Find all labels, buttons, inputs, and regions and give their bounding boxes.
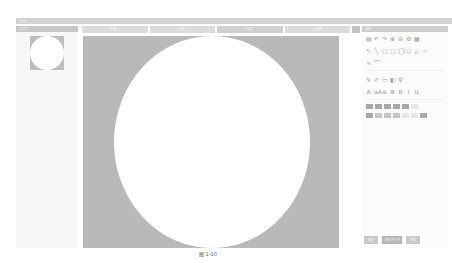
color-swatches bbox=[362, 102, 448, 120]
align-center-icon[interactable]: ≣ bbox=[390, 89, 395, 94]
arc-icon[interactable]: ⌒ bbox=[374, 60, 379, 65]
slides-panel: 幻灯片 bbox=[16, 26, 78, 248]
save-file-button[interactable]: 保存为文件 bbox=[382, 236, 402, 244]
fill-icon[interactable]: ◧ bbox=[390, 77, 395, 82]
cancel-button[interactable]: 取消 bbox=[406, 236, 420, 244]
star-icon[interactable]: ☆ bbox=[422, 48, 427, 53]
color-swatch[interactable] bbox=[384, 113, 391, 118]
step-tab-2[interactable]: 步骤二 bbox=[150, 26, 216, 33]
slide-thumbnail[interactable] bbox=[30, 36, 64, 70]
pen-icon[interactable]: ✎ bbox=[366, 77, 371, 82]
thumbnail-circle bbox=[30, 36, 64, 70]
bold-icon[interactable]: B bbox=[398, 89, 403, 94]
polygon-icon[interactable]: ⬠ bbox=[406, 48, 411, 53]
line-icon[interactable]: ╲ bbox=[374, 48, 379, 53]
color-swatch[interactable] bbox=[375, 113, 382, 118]
toolbar-row: ▤↶↷⊕⊖⚙▦ bbox=[362, 32, 448, 44]
color-swatch[interactable] bbox=[402, 104, 409, 109]
title-bar: Paint bbox=[16, 18, 452, 24]
step-tab-4[interactable]: 步骤四 bbox=[285, 26, 351, 33]
file-icon[interactable]: ▤ bbox=[366, 36, 371, 41]
toolbar-row: ∿⌒ bbox=[362, 56, 448, 68]
step-tabs: 步骤一 步骤二 步骤三 步骤四 bbox=[82, 26, 360, 33]
grid-icon[interactable]: ▦ bbox=[414, 36, 419, 41]
color-swatch[interactable] bbox=[420, 113, 427, 118]
color-swatch[interactable] bbox=[366, 113, 373, 118]
drawing-canvas[interactable] bbox=[83, 36, 339, 248]
align-left-icon[interactable]: ≡ bbox=[382, 89, 387, 94]
toolbar-row: ↖╲□▢◯⬠△☆ bbox=[362, 44, 448, 56]
italic-icon[interactable]: I bbox=[406, 89, 411, 94]
window-title: Paint bbox=[19, 19, 26, 23]
brush-icon[interactable]: ✐ bbox=[374, 77, 379, 82]
text-icon[interactable]: A bbox=[366, 89, 371, 94]
step-tab-1[interactable]: 步骤一 bbox=[82, 26, 148, 33]
color-swatch[interactable] bbox=[393, 104, 400, 109]
undo-icon[interactable]: ↶ bbox=[374, 36, 379, 41]
eraser-icon[interactable]: ▭ bbox=[382, 77, 387, 82]
select-icon[interactable]: ↖ bbox=[366, 48, 371, 53]
zoom-in-icon[interactable]: ⊕ bbox=[390, 36, 395, 41]
swatch-row bbox=[362, 111, 448, 120]
divider bbox=[366, 70, 444, 71]
color-swatch[interactable] bbox=[375, 104, 382, 109]
ellipse-icon[interactable]: ◯ bbox=[398, 48, 403, 53]
zoom-out-icon[interactable]: ⊖ bbox=[398, 36, 403, 41]
settings-icon[interactable]: ⚙ bbox=[406, 36, 411, 41]
curve-icon[interactable]: ∿ bbox=[366, 60, 371, 65]
redo-icon[interactable]: ↷ bbox=[382, 36, 387, 41]
swatch-row bbox=[362, 102, 448, 111]
toolbar: ▤↶↷⊕⊖⚙▦↖╲□▢◯⬠△☆∿⌒✎✐▭◧⚲AaA≡≣BIU bbox=[362, 32, 448, 97]
step-tab-end[interactable] bbox=[352, 26, 360, 33]
color-swatch[interactable] bbox=[411, 113, 418, 118]
color-swatch[interactable] bbox=[402, 113, 409, 118]
eyedropper-icon[interactable]: ⚲ bbox=[398, 77, 403, 82]
color-swatch[interactable] bbox=[411, 104, 418, 109]
toolbar-row: ✎✐▭◧⚲ bbox=[362, 73, 448, 85]
ok-button[interactable]: 确定 bbox=[364, 236, 378, 244]
action-buttons: 确定保存为文件取消 bbox=[364, 236, 420, 244]
rect-icon[interactable]: □ bbox=[382, 48, 387, 53]
font-size-icon[interactable]: aA bbox=[374, 89, 379, 94]
toolbar-row: AaA≡≣BIU bbox=[362, 85, 448, 97]
rounded-rect-icon[interactable]: ▢ bbox=[390, 48, 395, 53]
color-swatch[interactable] bbox=[393, 113, 400, 118]
underline-icon[interactable]: U bbox=[414, 89, 419, 94]
triangle-icon[interactable]: △ bbox=[414, 48, 419, 53]
circle-shape[interactable] bbox=[114, 36, 310, 248]
color-swatch[interactable] bbox=[384, 104, 391, 109]
slides-panel-title: 幻灯片 bbox=[16, 26, 78, 32]
divider bbox=[366, 99, 444, 100]
figure-caption: 图 1-10 bbox=[199, 250, 217, 257]
step-tab-3[interactable]: 步骤三 bbox=[217, 26, 283, 33]
color-swatch[interactable] bbox=[366, 104, 373, 109]
edit-panel: 编辑 ▤↶↷⊕⊖⚙▦↖╲□▢◯⬠△☆∿⌒✎✐▭◧⚲AaA≡≣BIU bbox=[362, 26, 448, 248]
